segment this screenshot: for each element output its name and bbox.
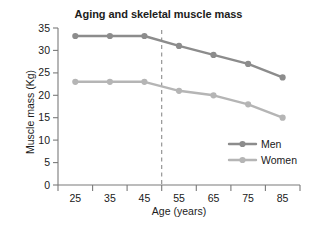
xtick-label-75: 75 [233, 193, 263, 204]
xtick-label-35: 35 [95, 193, 125, 204]
xtick-label-45: 45 [129, 193, 159, 204]
series-line-women [75, 82, 282, 118]
legend-label-men: Men [261, 139, 281, 150]
series-markers-men [72, 33, 286, 81]
legend-swatch-women [229, 157, 256, 163]
legend-label-women: Women [261, 155, 297, 166]
xtick-label-55: 55 [164, 193, 194, 204]
chart-figure: Aging and skeletal muscle mass [0, 0, 317, 227]
y-axis-title: Muscle mass (Kg) [24, 37, 36, 187]
series-line-men [75, 36, 282, 77]
series-markers-women [72, 79, 286, 121]
x-tick-marks [58, 185, 300, 191]
legend-swatch-men [229, 141, 256, 147]
xtick-label-65: 65 [199, 193, 229, 204]
x-axis-title: Age (years) [58, 205, 300, 217]
xtick-label-25: 25 [60, 193, 90, 204]
ytick-label-35: 35 [26, 23, 50, 34]
xtick-label-85: 85 [268, 193, 298, 204]
y-tick-marks [53, 28, 58, 185]
